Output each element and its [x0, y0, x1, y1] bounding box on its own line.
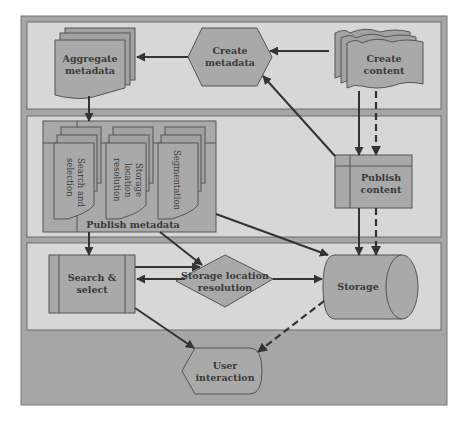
segmentation-doc-node: Segmentation	[158, 127, 205, 219]
storage-location-resolution-label-2: resolution	[198, 282, 253, 293]
storage-location-label-3: resolution	[112, 158, 122, 202]
create-content-label-1: Create	[366, 53, 401, 64]
create-content-node: Create content	[335, 29, 423, 88]
search-and-selection-doc-node: Search and selection	[54, 127, 101, 219]
storage-label: Storage	[337, 281, 378, 292]
create-metadata-label-1: Create	[212, 45, 247, 56]
search-select-label-1: Search &	[68, 272, 117, 283]
aggregate-metadata-node: Aggregate metadata	[55, 28, 135, 99]
search-select-label-2: select	[76, 284, 108, 295]
user-interaction-node: User interaction	[182, 348, 262, 394]
storage-location-resolution-label-1: Storage location	[181, 270, 269, 281]
segmentation-label: Segmentation	[172, 150, 182, 211]
publish-content-label-2: content	[361, 184, 402, 195]
publish-content-label-1: Publish	[361, 172, 401, 183]
storage-location-label-1: Storage	[134, 163, 144, 197]
content-publishing-flow-diagram: Aggregate metadata Create metadata Creat…	[0, 0, 462, 422]
publish-content-node: Publish content	[335, 155, 412, 208]
create-metadata-node: Create metadata	[188, 28, 272, 86]
search-and-selection-label-1: Search and	[76, 158, 86, 207]
publish-metadata-label: Publish metadata	[86, 219, 179, 230]
user-interaction-label-2: interaction	[195, 372, 254, 383]
search-select-node: Search & select	[49, 255, 135, 313]
storage-node: Storage	[323, 255, 418, 319]
user-interaction-label-1: User	[213, 360, 239, 371]
storage-location-resolution-doc-node: Storage location resolution	[106, 127, 153, 219]
search-and-selection-label-2: selection	[65, 158, 75, 197]
create-metadata-label-2: metadata	[205, 57, 255, 68]
storage-location-label-2: location	[123, 163, 133, 198]
create-content-label-2: content	[364, 65, 405, 76]
aggregate-metadata-label-2: metadata	[65, 65, 115, 76]
aggregate-metadata-label-1: Aggregate	[62, 53, 118, 64]
